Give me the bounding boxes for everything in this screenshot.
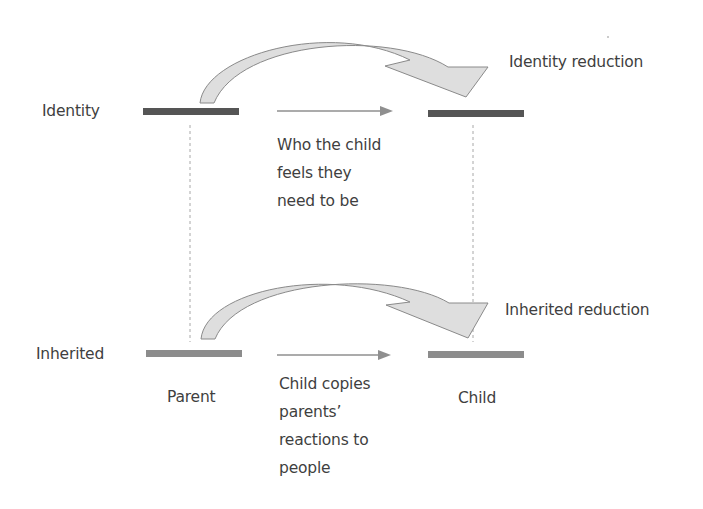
parent-column-label: Parent	[167, 383, 215, 411]
identity-curved-arrow-icon	[200, 43, 488, 103]
inherited-child-bar	[428, 351, 524, 358]
identity-description-line: Who the child	[277, 131, 381, 159]
inherited-row-label: Inherited	[36, 340, 104, 368]
identity-description: Who the child feels they need to be	[277, 131, 381, 215]
inherited-description: Child copies parents’ reactions to peopl…	[279, 370, 370, 482]
identity-reduction-label: Identity reduction	[509, 48, 643, 76]
inherited-description-line: Child copies	[279, 370, 370, 398]
identity-description-line: feels they	[277, 159, 381, 187]
inherited-straight-arrow-icon	[277, 350, 391, 360]
identity-row-label: Identity	[42, 97, 100, 125]
inherited-reduction-label: Inherited reduction	[505, 296, 649, 324]
identity-parent-bar	[143, 108, 239, 115]
inherited-parent-bar	[146, 350, 242, 357]
identity-straight-arrow-icon	[277, 106, 393, 116]
speck	[607, 36, 609, 38]
inherited-curved-arrow-icon	[201, 284, 488, 339]
inherited-description-line: parents’	[279, 398, 370, 426]
child-column-label: Child	[458, 384, 496, 412]
identity-description-line: need to be	[277, 187, 381, 215]
inherited-description-line: people	[279, 454, 370, 482]
identity-child-bar	[428, 110, 524, 117]
inherited-description-line: reactions to	[279, 426, 370, 454]
